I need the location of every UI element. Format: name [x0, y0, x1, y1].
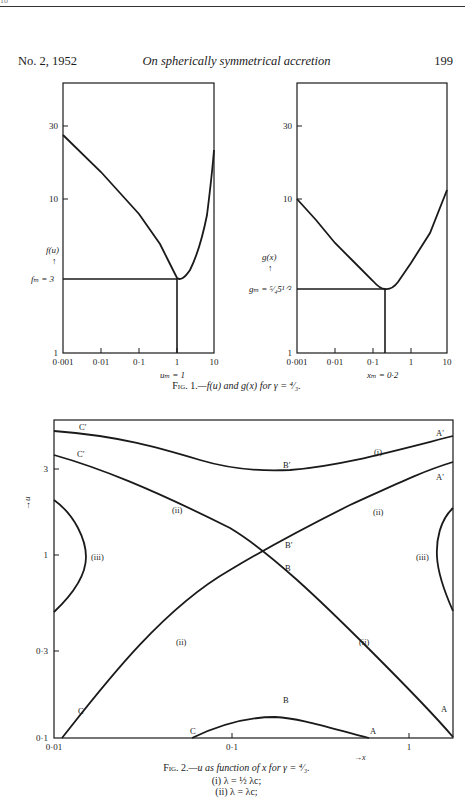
svg-text:1: 1 [409, 357, 414, 367]
svg-text:0·01: 0·01 [327, 357, 344, 367]
svg-text:10: 10 [49, 194, 59, 204]
chart-u-vs-x: 3 1 0·3 0·1 0·01 0·1 1 →x →u C′ C′ B′ A′… [22, 420, 453, 762]
curve-iii-right [437, 508, 453, 611]
svg-text:f(u): f(u) [46, 245, 59, 255]
figure2-caption-text: —u as function of x for γ = ⁴⁄₃. [189, 762, 310, 773]
svg-text:0·1: 0·1 [367, 357, 379, 367]
svg-text:C: C [78, 706, 84, 716]
figure1-caption-prefix: Fig. 1. [172, 380, 197, 391]
svg-text:0·3: 0·3 [36, 646, 48, 656]
svg-text:fₘ = 3: fₘ = 3 [31, 274, 55, 284]
svg-text:B: B [285, 563, 291, 573]
figures-canvas: 30 10 1 0·001 0·01 0·1 1 10 f(u) ↑ fₘ = … [0, 0, 473, 800]
curve-iii-left [54, 500, 86, 612]
svg-text:0·1: 0·1 [226, 742, 238, 752]
svg-text:g(x): g(x) [262, 252, 277, 262]
curve-i-lower [192, 717, 369, 738]
svg-text:C: C [190, 726, 196, 736]
svg-text:(ii): (ii) [373, 507, 384, 517]
figure2-legend-i: (i) λ = ½ λc; [0, 775, 473, 786]
svg-text:B′: B′ [283, 460, 291, 470]
svg-text:10: 10 [443, 357, 453, 367]
figure1-caption-text: —f(u) and g(x) for γ = ⁴⁄₃. [198, 380, 301, 391]
svg-text:gₘ = ⁵⁄₄5¹ᐟ²: gₘ = ⁵⁄₄5¹ᐟ² [249, 284, 292, 294]
f-curve [63, 135, 214, 279]
figure2-caption: Fig. 2.—u as function of x for γ = ⁴⁄₃. [0, 762, 473, 773]
svg-text:1: 1 [407, 742, 412, 752]
chart-f-of-u: 30 10 1 0·001 0·01 0·1 1 10 f(u) ↑ fₘ = … [31, 83, 219, 380]
svg-text:10: 10 [210, 357, 220, 367]
svg-text:C′: C′ [79, 422, 87, 432]
svg-text:A′: A′ [436, 472, 444, 482]
svg-text:↑: ↑ [268, 263, 273, 273]
svg-text:30: 30 [49, 121, 59, 131]
svg-text:0·01: 0·01 [46, 742, 63, 752]
svg-text:30: 30 [283, 121, 293, 131]
svg-text:B: B [283, 695, 289, 705]
svg-text:1: 1 [175, 357, 180, 367]
svg-text:→x: →x [354, 753, 366, 762]
svg-text:0·1: 0·1 [133, 357, 145, 367]
svg-text:(ii): (ii) [359, 637, 370, 647]
curve-i-upper [54, 431, 453, 470]
figure1-caption: Fig. 1.—f(u) and g(x) for γ = ⁴⁄₃. [0, 380, 473, 391]
svg-text:0·01: 0·01 [93, 357, 110, 367]
svg-text:A: A [370, 726, 377, 736]
svg-text:10: 10 [283, 194, 293, 204]
svg-text:↑: ↑ [52, 256, 57, 266]
svg-text:(ii): (ii) [172, 505, 183, 515]
g-curve [297, 190, 447, 289]
svg-text:xₘ = 0·2: xₘ = 0·2 [366, 370, 399, 380]
curve-ii-decreasing [54, 455, 453, 737]
svg-text:(i): (i) [374, 447, 382, 457]
svg-text:(ii): (ii) [176, 637, 187, 647]
svg-text:uₘ = 1: uₘ = 1 [160, 370, 185, 380]
figure2-caption-prefix: Fig. 2. [163, 762, 188, 773]
svg-text:(iii): (iii) [416, 552, 429, 562]
svg-text:A′: A′ [436, 428, 444, 438]
svg-text:(iii): (iii) [91, 552, 104, 562]
chart-g-of-x: 30 10 1 0·001 0·01 0·1 1 10 g(x) ↑ gₘ = … [249, 83, 452, 380]
svg-text:B′: B′ [285, 540, 293, 550]
svg-text:3: 3 [44, 464, 49, 474]
svg-text:0·001: 0·001 [287, 357, 308, 367]
svg-text:0·001: 0·001 [53, 357, 74, 367]
curve-ii-increasing [62, 462, 453, 738]
svg-text:C′: C′ [77, 449, 85, 459]
svg-text:A: A [441, 704, 448, 714]
figure2-legend-ii: (ii) λ = λc; [0, 786, 473, 797]
svg-text:→u: →u [22, 496, 32, 510]
svg-text:1: 1 [44, 550, 49, 560]
